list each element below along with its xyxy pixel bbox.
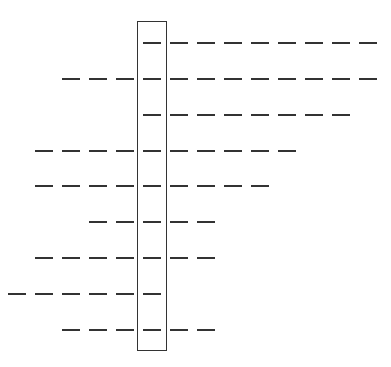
dash-left xyxy=(116,150,134,152)
dash-right xyxy=(170,150,188,152)
dash-right xyxy=(170,78,188,80)
dash-left xyxy=(35,257,53,259)
dash-inside xyxy=(143,293,161,295)
dash-right xyxy=(170,114,188,116)
dash-right xyxy=(224,114,242,116)
dash-left xyxy=(35,150,53,152)
dashed-line-diagram xyxy=(0,0,391,367)
dash-left xyxy=(89,329,107,331)
dash-right xyxy=(197,114,215,116)
dash-right xyxy=(170,329,188,331)
dash-right xyxy=(197,78,215,80)
dash-right xyxy=(197,221,215,223)
dash-inside xyxy=(143,78,161,80)
dash-right xyxy=(197,42,215,44)
dash-right xyxy=(305,42,323,44)
dash-right xyxy=(224,150,242,152)
dash-inside xyxy=(143,221,161,223)
dash-left xyxy=(89,293,107,295)
dash-left xyxy=(89,78,107,80)
dash-left xyxy=(116,293,134,295)
dash-right xyxy=(332,42,350,44)
dash-left xyxy=(62,293,80,295)
dash-right xyxy=(278,42,296,44)
dash-right xyxy=(359,42,377,44)
dash-left xyxy=(89,257,107,259)
dash-right xyxy=(197,329,215,331)
dash-right xyxy=(170,257,188,259)
dash-right xyxy=(170,42,188,44)
dash-right xyxy=(224,185,242,187)
dash-left xyxy=(116,329,134,331)
dash-left xyxy=(62,185,80,187)
dash-right xyxy=(278,114,296,116)
dash-inside xyxy=(143,114,161,116)
dash-right xyxy=(224,42,242,44)
dash-right xyxy=(305,114,323,116)
dash-right xyxy=(170,185,188,187)
dash-left xyxy=(89,221,107,223)
dash-inside xyxy=(143,329,161,331)
dash-right xyxy=(251,42,269,44)
dash-inside xyxy=(143,42,161,44)
dash-left xyxy=(8,293,26,295)
dash-left xyxy=(89,150,107,152)
dash-right xyxy=(251,150,269,152)
dash-right xyxy=(251,114,269,116)
dash-left xyxy=(62,257,80,259)
dash-right xyxy=(197,150,215,152)
dash-left xyxy=(116,257,134,259)
dash-left xyxy=(62,78,80,80)
dash-left xyxy=(116,185,134,187)
dash-right xyxy=(170,221,188,223)
dash-right xyxy=(251,78,269,80)
dash-right xyxy=(224,78,242,80)
dash-right xyxy=(359,78,377,80)
dash-left xyxy=(62,150,80,152)
dash-inside xyxy=(143,150,161,152)
dash-right xyxy=(197,185,215,187)
dash-right xyxy=(278,78,296,80)
dash-left xyxy=(35,293,53,295)
dash-right xyxy=(251,185,269,187)
dash-right xyxy=(332,78,350,80)
dash-left xyxy=(62,329,80,331)
dash-left xyxy=(35,185,53,187)
dash-right xyxy=(305,78,323,80)
dash-inside xyxy=(143,185,161,187)
dash-right xyxy=(332,114,350,116)
dash-right xyxy=(278,150,296,152)
dash-right xyxy=(197,257,215,259)
dash-left xyxy=(116,221,134,223)
dash-inside xyxy=(143,257,161,259)
dash-left xyxy=(89,185,107,187)
dash-left xyxy=(116,78,134,80)
